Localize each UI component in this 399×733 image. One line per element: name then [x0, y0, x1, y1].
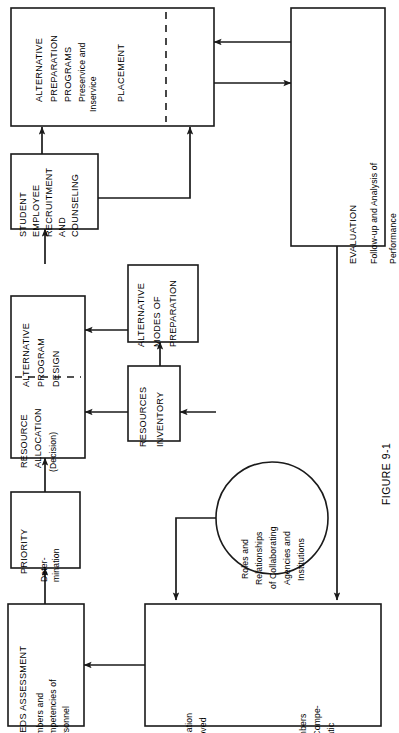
- label-institutions: Institutions: [290, 493, 308, 581]
- text-decision: (Decision): [48, 432, 58, 472]
- label-personnel-needs: Personnel: [55, 628, 73, 733]
- label-evaluation-title: EVALUATION: [342, 34, 360, 264]
- label-modes-preparation: PREPARATION: [162, 273, 180, 347]
- text-institutions: Institutions: [296, 538, 306, 581]
- text-personnel-needs: Personnel: [61, 706, 71, 733]
- label-programs-placement: PLACEMENT: [110, 0, 128, 102]
- text-placement: PLACEMENT: [116, 44, 126, 102]
- label-programs-inservice: Inservice: [82, 2, 100, 112]
- text-performance: Performance: [388, 213, 398, 264]
- text-priority: PRIORITY: [19, 529, 29, 574]
- text-followup-analysis: Follow-up and Analysis of: [369, 163, 379, 264]
- connector-student-to-placement: [98, 127, 190, 198]
- label-counseling: COUNSELING: [64, 165, 82, 237]
- text-inservice: Inservice: [88, 76, 98, 112]
- label-goals: GOALS: [258, 672, 276, 733]
- text-modes-alternative: ALTERNATIVE: [136, 283, 146, 347]
- label-alt-program-design: DESIGN: [45, 311, 63, 387]
- label-needs-assessment: NEEDS ASSESSMENT: [12, 628, 30, 733]
- connector-roles-to-mission: [176, 518, 217, 600]
- figure-container: ALTERNATIVE PREPARATION PROGRAMS Preserv…: [0, 0, 399, 733]
- label-mination: mination: [45, 510, 63, 582]
- label-evaluation-followup: Follow-up and Analysis of: [363, 34, 381, 264]
- label-development: Development: [334, 672, 352, 733]
- label-inventory: INVENTORY: [149, 375, 167, 447]
- text-needs-assessment: NEEDS ASSESSMENT: [18, 646, 28, 733]
- text-modes-preparation: PREPARATION: [168, 280, 178, 347]
- label-priority: PRIORITY: [13, 502, 31, 574]
- text-resources: RESOURCES: [138, 387, 148, 447]
- text-mination: mination: [51, 548, 61, 582]
- text-counseling: COUNSELING: [70, 174, 80, 237]
- label-decision: (Decision): [42, 396, 60, 472]
- text-figure-caption: FIGURE 9-1: [381, 443, 392, 505]
- label-personnel-mission: Personnel: [220, 672, 238, 733]
- label-evaluation-performance: Performance: [382, 34, 399, 264]
- label-mission: MISSION: [160, 672, 178, 733]
- text-alt-design: DESIGN: [51, 350, 61, 387]
- figure-caption: FIGURE 9-1: [376, 385, 394, 505]
- text-inventory: INVENTORY: [155, 392, 165, 447]
- label-resources: RESOURCES: [132, 375, 150, 447]
- text-evaluation: EVALUATION: [348, 205, 358, 264]
- text-modes-of: MODES OF: [152, 296, 162, 347]
